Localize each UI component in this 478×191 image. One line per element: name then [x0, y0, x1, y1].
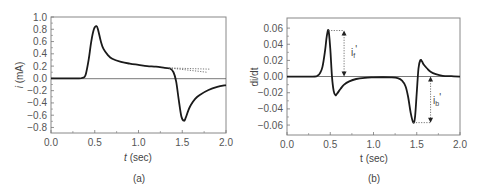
x-tick-label: 0.0 [280, 139, 294, 150]
panel-label-b: (b) [368, 173, 380, 184]
x-tick-labels-b: 0.00.51.01.52.0 [280, 139, 467, 150]
y-axis-label-a: i (mA) [14, 62, 25, 89]
y-tick-label: −0.02 [258, 87, 284, 98]
y-tick-label: 0.02 [264, 55, 284, 66]
y-tick-label: −0.4 [27, 97, 47, 108]
x-axis-label-a: t (sec) [124, 152, 152, 163]
arrow-head-down-icon [342, 72, 347, 77]
y-tick-label: −0.6 [27, 110, 47, 121]
x-tick-label: 2.0 [453, 139, 467, 150]
y-tick-label: −0.2 [27, 85, 47, 96]
y-tick-labels-b: 0.060.040.020.00−0.02−0.04−0.06 [258, 23, 284, 131]
y-tick-labels-a: 1.00.80.60.40.20.0−0.2−0.4−0.6−0.8 [27, 12, 47, 133]
y-tick-label: 0.04 [264, 39, 284, 50]
plot-frame-a [51, 17, 226, 133]
y-tick-label: −0.06 [258, 120, 284, 131]
figure: 1.00.80.60.40.20.0−0.2−0.4−0.6−0.8 0.00.… [0, 0, 478, 191]
x-tick-labels-a: 0.00.51.01.52.0 [44, 137, 233, 148]
arrow-head-up-icon [428, 77, 433, 82]
panel-label-a: (a) [133, 173, 145, 184]
x-tick-label: 1.5 [410, 139, 424, 150]
y-tick-label: 1.0 [33, 12, 47, 23]
x-tick-label: 1.0 [132, 137, 146, 148]
data-curve [51, 26, 226, 121]
x-tick-label: 0.0 [44, 137, 58, 148]
axis-ticks-b [287, 28, 460, 135]
annotation-label-if: if' [351, 44, 357, 59]
y-tick-label: 0.0 [33, 73, 47, 84]
x-tick-label: 1.5 [175, 137, 189, 148]
x-tick-label: 0.5 [88, 137, 102, 148]
y-tick-label: 0.6 [33, 36, 47, 47]
x-tick-label: 0.5 [323, 139, 337, 150]
chart-panel-a: 1.00.80.60.40.20.0−0.2−0.4−0.6−0.8 0.00.… [14, 12, 233, 185]
axis-ticks-a [51, 17, 226, 133]
annotation-label-ib: ib' [433, 92, 441, 107]
x-tick-label: 2.0 [219, 137, 233, 148]
y-axis-label-b: di/dt [249, 67, 260, 86]
x-tick-label: 1.0 [367, 139, 381, 150]
y-tick-label: 0.06 [264, 23, 284, 34]
data-lines-a [51, 26, 226, 121]
y-tick-label: 0.4 [33, 48, 47, 59]
arrow-head-up-icon [342, 31, 347, 36]
chart-panel-b: 0.060.040.020.00−0.02−0.04−0.06 0.00.51.… [249, 18, 467, 184]
y-tick-label: 0.2 [33, 61, 47, 72]
y-tick-label: 0.00 [264, 71, 284, 82]
y-tick-label: −0.04 [258, 103, 284, 114]
y-tick-label: −0.8 [27, 122, 47, 133]
x-axis-label-b: t (sec) [360, 153, 388, 164]
y-tick-label: 0.8 [33, 24, 47, 35]
arrow-head-down-icon [428, 118, 433, 123]
